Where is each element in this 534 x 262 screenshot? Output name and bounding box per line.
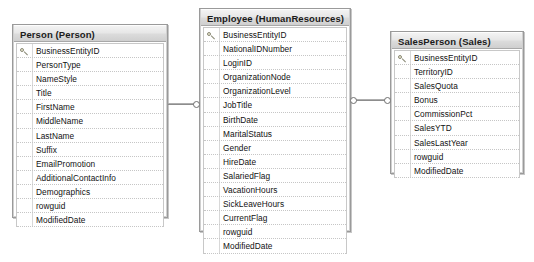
column-divider <box>219 225 220 238</box>
table-row[interactable]: BusinessEntityID <box>17 44 163 58</box>
relationship-person-employee[interactable] <box>168 99 199 109</box>
primary-key-icon <box>204 28 219 42</box>
column-name: BusinessEntityID <box>414 51 478 65</box>
table-employee-title[interactable]: Employee (HumanResources) <box>201 9 349 26</box>
table-row[interactable]: NationalIDNumber <box>204 42 346 56</box>
table-row[interactable]: ModifiedDate <box>17 213 163 227</box>
column-divider <box>219 70 220 83</box>
table-row[interactable]: BusinessEntityID <box>204 28 346 42</box>
table-row[interactable]: Suffix <box>17 143 163 157</box>
column-divider <box>219 197 220 210</box>
column-name: OrganizationLevel <box>223 84 291 98</box>
table-row[interactable]: SalesLastYear <box>395 136 519 150</box>
table-row[interactable]: ModifiedDate <box>204 239 346 253</box>
relationship-employee-salesperson[interactable] <box>351 95 390 105</box>
column-name: MiddleName <box>36 114 83 128</box>
column-divider <box>219 113 220 126</box>
column-name: PersonType <box>36 58 81 72</box>
table-row[interactable]: Gender <box>204 141 346 155</box>
column-name: SalariedFlag <box>223 169 270 183</box>
table-row[interactable]: MiddleName <box>17 114 163 128</box>
column-divider <box>219 84 220 97</box>
column-divider <box>32 129 33 142</box>
table-row[interactable]: HireDate <box>204 155 346 169</box>
table-salesperson-body: SalesPerson (Sales) BusinessEntityIDTerr… <box>391 32 523 173</box>
column-name: FirstName <box>36 100 75 114</box>
table-row[interactable]: SalesYTD <box>395 121 519 135</box>
table-employee[interactable]: Employee (HumanResources) BusinessEntity… <box>199 8 351 232</box>
column-divider <box>32 171 33 184</box>
column-name: BusinessEntityID <box>36 44 100 58</box>
column-divider <box>219 42 220 55</box>
column-name: NameStyle <box>36 72 77 86</box>
table-row[interactable]: SalariedFlag <box>204 169 346 183</box>
table-person-title[interactable]: Person (Person) <box>14 25 166 42</box>
column-name: CommissionPct <box>414 107 472 121</box>
table-person[interactable]: Person (Person) BusinessEntityIDPersonTy… <box>12 24 168 218</box>
table-row[interactable]: AdditionalContactInfo <box>17 171 163 185</box>
column-divider <box>219 183 220 196</box>
table-employee-body: Employee (HumanResources) BusinessEntity… <box>200 9 350 231</box>
table-salesperson[interactable]: SalesPerson (Sales) BusinessEntityIDTerr… <box>390 31 524 174</box>
table-row[interactable]: PersonType <box>17 58 163 72</box>
column-divider <box>32 143 33 156</box>
column-name: Bonus <box>414 93 438 107</box>
table-row[interactable]: LastName <box>17 129 163 143</box>
table-row[interactable]: NameStyle <box>17 72 163 86</box>
column-divider <box>32 185 33 198</box>
primary-key-icon <box>17 44 32 58</box>
column-divider <box>32 157 33 170</box>
table-row[interactable]: LoginID <box>204 56 346 70</box>
column-divider <box>32 44 33 57</box>
column-divider <box>219 141 220 154</box>
column-name: Suffix <box>36 143 57 157</box>
column-name: Demographics <box>36 185 90 199</box>
table-row[interactable]: rowguid <box>395 150 519 164</box>
column-divider <box>219 56 220 69</box>
column-divider <box>410 65 411 78</box>
table-row[interactable]: SalesQuota <box>395 79 519 93</box>
column-name: ModifiedDate <box>414 164 464 178</box>
table-row[interactable]: Bonus <box>395 93 519 107</box>
table-row[interactable]: Title <box>17 86 163 100</box>
column-name: rowguid <box>36 199 65 213</box>
table-row[interactable]: Demographics <box>17 185 163 199</box>
table-row[interactable]: SickLeaveHours <box>204 197 346 211</box>
column-divider <box>219 98 220 111</box>
table-row[interactable]: OrganizationNode <box>204 70 346 84</box>
table-row[interactable]: ModifiedDate <box>395 164 519 178</box>
table-person-columns: BusinessEntityIDPersonTypeNameStyleTitle… <box>16 43 164 227</box>
table-row[interactable]: FirstName <box>17 100 163 114</box>
table-salesperson-title[interactable]: SalesPerson (Sales) <box>392 32 522 49</box>
table-row[interactable]: VacationHours <box>204 183 346 197</box>
column-name: OrganizationNode <box>223 70 291 84</box>
table-row[interactable]: CurrentFlag <box>204 211 346 225</box>
primary-key-icon <box>395 51 410 65</box>
column-name: ModifiedDate <box>223 239 273 253</box>
column-divider <box>219 155 220 168</box>
column-name: Gender <box>223 141 251 155</box>
column-name: JobTitle <box>223 98 252 112</box>
table-row[interactable]: BirthDate <box>204 113 346 127</box>
column-name: LastName <box>36 129 74 143</box>
table-row[interactable]: rowguid <box>204 225 346 239</box>
column-divider <box>32 58 33 71</box>
relationship-endpoint-one-icon <box>193 101 200 108</box>
table-row[interactable]: TerritoryID <box>395 65 519 79</box>
table-row[interactable]: EmailPromotion <box>17 157 163 171</box>
column-divider <box>32 72 33 85</box>
key-icon <box>398 54 407 63</box>
column-name: LoginID <box>223 56 252 70</box>
table-employee-columns: BusinessEntityIDNationalIDNumberLoginIDO… <box>203 27 347 254</box>
column-divider <box>32 213 33 226</box>
column-name: Title <box>36 86 52 100</box>
database-diagram-canvas: Person (Person) BusinessEntityIDPersonTy… <box>0 0 534 262</box>
table-row[interactable]: OrganizationLevel <box>204 84 346 98</box>
column-name: VacationHours <box>223 183 277 197</box>
table-row[interactable]: CommissionPct <box>395 107 519 121</box>
column-divider <box>219 169 220 182</box>
table-row[interactable]: JobTitle <box>204 98 346 112</box>
table-row[interactable]: rowguid <box>17 199 163 213</box>
table-row[interactable]: MaritalStatus <box>204 127 346 141</box>
table-row[interactable]: BusinessEntityID <box>395 51 519 65</box>
